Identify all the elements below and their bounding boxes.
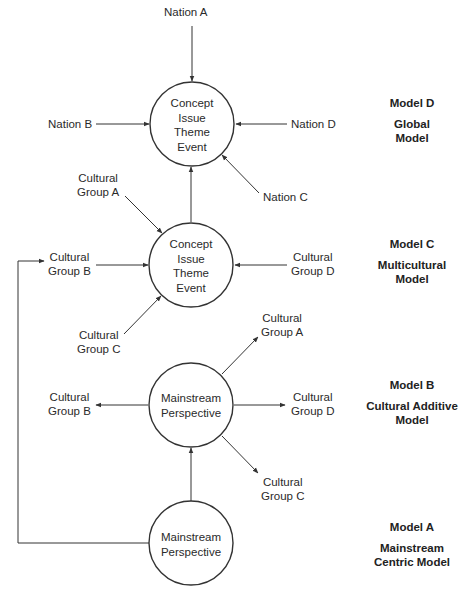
label-nation-c: Nation C (263, 190, 308, 204)
model-c-caption: Model C Multicultural Model (352, 237, 472, 286)
label-nation-b: Nation B (48, 117, 92, 131)
model-a-name: Model A (352, 520, 472, 534)
model-d-name: Model D (352, 96, 472, 110)
model-c-name: Model C (352, 237, 472, 251)
model-d-caption: Model D Global Model (352, 96, 472, 145)
model-c-center-text: Concept Issue Theme Event (149, 237, 233, 295)
label-b-group-c: Cultural Group C (261, 475, 304, 503)
model-b-name: Model B (352, 378, 472, 392)
arrow-b-group-a (222, 337, 258, 374)
label-b-group-a: Cultural Group A (261, 311, 303, 339)
model-b-caption: Model B Cultural Additive Model (352, 378, 472, 427)
label-nation-a: Nation A (164, 5, 207, 19)
model-a-caption: Model A Mainstream Centric Model (352, 520, 472, 569)
label-c-group-a: Cultural Group A (77, 171, 119, 199)
label-nation-d: Nation D (291, 117, 336, 131)
model-d-center-text: Concept Issue Theme Event (150, 96, 234, 154)
label-c-group-b: Cultural Group B (48, 250, 91, 278)
label-b-group-d: Cultural Group D (291, 390, 334, 418)
diagram-canvas (0, 0, 474, 604)
arrow-c-group-c (124, 296, 161, 334)
arrow-c-group-a (125, 196, 162, 233)
label-c-group-d: Cultural Group D (291, 250, 334, 278)
arrow-b-group-c (222, 436, 258, 473)
arrow-nation-c (222, 155, 259, 193)
label-b-group-b: Cultural Group B (48, 390, 91, 418)
model-a-center-text: Mainstream Perspective (149, 530, 233, 559)
label-c-group-c: Cultural Group C (77, 328, 120, 356)
model-b-center-text: Mainstream Perspective (149, 391, 233, 420)
